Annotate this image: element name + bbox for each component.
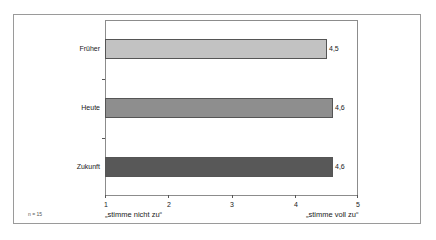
bar-frueher bbox=[105, 39, 327, 59]
y-tick bbox=[102, 138, 105, 139]
x-tick-label: 3 bbox=[227, 201, 237, 208]
category-label-frueher: Früher bbox=[79, 45, 100, 52]
sample-size-note: n = 15 bbox=[28, 211, 42, 217]
value-label-heute: 4,6 bbox=[335, 104, 345, 111]
x-tick-label: 1 bbox=[101, 201, 111, 208]
value-label-frueher: 4,5 bbox=[329, 45, 339, 52]
x-tick bbox=[232, 195, 233, 198]
value-label-zukunft: 4,6 bbox=[335, 163, 345, 170]
bar-heute bbox=[105, 98, 333, 118]
x-anchor-low: „stimme nicht zu“ bbox=[105, 210, 162, 219]
x-tick bbox=[105, 195, 106, 198]
x-tick-label: 2 bbox=[164, 201, 174, 208]
x-anchor-high: „stimme voll zu“ bbox=[306, 210, 359, 219]
bar-zukunft bbox=[105, 157, 333, 177]
x-tick bbox=[357, 195, 358, 198]
x-tick-label: 4 bbox=[291, 201, 301, 208]
category-label-heute: Heute bbox=[81, 104, 100, 111]
category-label-zukunft: Zukunft bbox=[77, 163, 100, 170]
x-tick-label: 5 bbox=[353, 201, 363, 208]
y-tick bbox=[102, 79, 105, 80]
x-tick bbox=[168, 195, 169, 198]
x-tick bbox=[295, 195, 296, 198]
